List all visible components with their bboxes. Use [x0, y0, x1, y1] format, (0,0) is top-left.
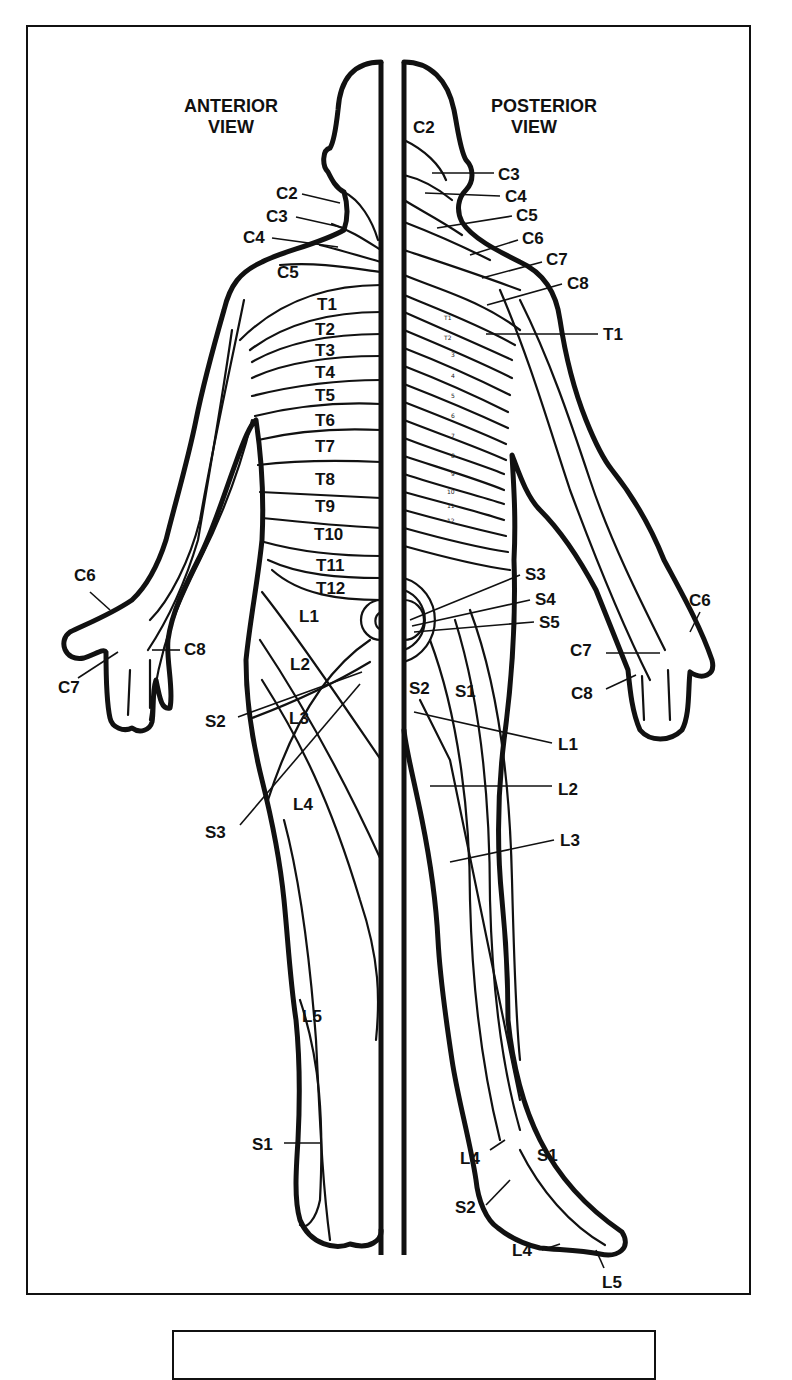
anterior-neck-lines [280, 192, 381, 272]
label-post-l1: L1 [558, 735, 578, 754]
label-post-foot-s1: S1 [537, 1146, 558, 1165]
label-ant-c6: C6 [74, 566, 96, 585]
posterior-back-bands [404, 275, 520, 570]
label-ant-c5: C5 [277, 263, 299, 282]
label-ant-l1: L1 [299, 607, 319, 626]
label-t1: T1 [317, 295, 337, 314]
label-t10: T10 [314, 525, 343, 544]
label-post-foot-l4: L4 [460, 1149, 480, 1168]
label-post-l3: L3 [560, 831, 580, 850]
svg-text:9: 9 [451, 470, 455, 477]
label-ant-c4: C4 [243, 228, 265, 247]
label-ant-s2: S2 [205, 712, 226, 731]
label-post-foot-l4b: L4 [512, 1241, 532, 1260]
svg-text:12: 12 [447, 517, 455, 524]
label-ant-l3: L3 [289, 709, 309, 728]
svg-text:5: 5 [451, 392, 455, 399]
svg-text:T1: T1 [443, 314, 452, 321]
posterior-leg-lines [420, 610, 605, 1245]
label-post-c6: C6 [689, 591, 711, 610]
label-ant-l2: L2 [290, 655, 310, 674]
label-t5: T5 [315, 386, 335, 405]
label-post-c8: C8 [571, 684, 593, 703]
label-post-s1: S1 [455, 682, 476, 701]
label-post-s5: S5 [539, 613, 560, 632]
label-ant-s3: S3 [205, 823, 226, 842]
label-ant-c7: C7 [58, 678, 80, 697]
posterior-title-line1: POSTERIOR [491, 96, 597, 116]
svg-text:7: 7 [451, 432, 455, 439]
label-post-s4: S4 [535, 590, 556, 609]
label-post-c2: C2 [413, 118, 435, 137]
anterior-labels: C2 C3 C4 C5 T1 T2 T3 T4 T5 T6 T7 T8 T9 T… [58, 184, 362, 1154]
label-t9: T9 [315, 497, 335, 516]
label-t7: T7 [315, 437, 335, 456]
label-post-c4: C4 [505, 187, 527, 206]
label-post-s3: S3 [525, 565, 546, 584]
svg-text:T2: T2 [443, 334, 452, 341]
anterior-fingers [128, 660, 150, 715]
label-t8: T8 [315, 470, 335, 489]
label-t3: T3 [315, 341, 335, 360]
caption-box [172, 1330, 656, 1380]
anterior-body-outline [64, 62, 381, 1246]
svg-text:10: 10 [447, 488, 455, 495]
label-post-t1: T1 [603, 325, 623, 344]
label-t11: T11 [316, 556, 344, 575]
label-post-c5: C5 [516, 206, 538, 225]
label-post-s2: S2 [409, 679, 430, 698]
svg-text:4: 4 [451, 372, 455, 379]
label-t4: T4 [315, 363, 335, 382]
label-post-c7: C7 [570, 641, 592, 660]
label-t6: T6 [315, 411, 335, 430]
label-ant-c8: C8 [184, 640, 206, 659]
label-ant-s1: S1 [252, 1135, 273, 1154]
label-post-c8: C8 [567, 274, 589, 293]
svg-text:8: 8 [451, 452, 455, 459]
posterior-neck-lines [404, 140, 520, 290]
posterior-fingers [642, 670, 670, 720]
posterior-title-line2: VIEW [511, 117, 557, 137]
anterior-title-line2: VIEW [208, 117, 254, 137]
svg-text:11: 11 [447, 502, 455, 509]
label-ant-c2: C2 [276, 184, 298, 203]
label-t12: T12 [316, 579, 345, 598]
svg-text:3: 3 [451, 351, 455, 358]
label-post-foot-s2: S2 [455, 1198, 476, 1217]
label-post-c7: C7 [546, 250, 568, 269]
label-post-foot-l5: L5 [602, 1273, 622, 1292]
anterior-title-line1: ANTERIOR [184, 96, 278, 116]
sacral-rings [361, 578, 435, 662]
label-ant-l4: L4 [293, 795, 313, 814]
label-post-l2: L2 [558, 780, 578, 799]
label-post-c6: C6 [522, 229, 544, 248]
label-post-c3: C3 [498, 165, 520, 184]
label-t2: T2 [315, 320, 335, 339]
label-ant-c3: C3 [266, 207, 288, 226]
label-ant-l5: L5 [302, 1007, 322, 1026]
svg-text:6: 6 [451, 412, 455, 419]
